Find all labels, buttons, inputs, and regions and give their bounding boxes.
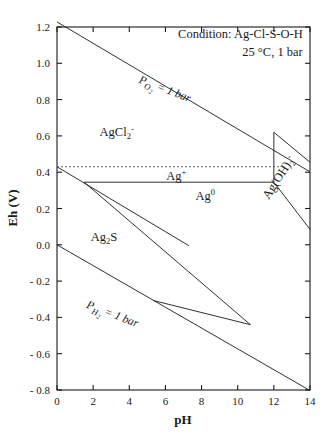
y-axis-ticks bbox=[57, 27, 310, 390]
x-tick-label-6: 6 bbox=[163, 395, 169, 407]
phase-label-agcl2-minus: AgCl2- bbox=[100, 124, 134, 141]
phase-label-ag2s: Ag2S bbox=[91, 230, 118, 246]
x-tick-label-4: 4 bbox=[127, 395, 133, 407]
ph2-label: PH2 = 1 bar bbox=[82, 298, 140, 334]
phase-region-labels: AgCl2-Ag+Ag0Ag2SAg(OH)2- bbox=[91, 124, 300, 246]
pourbaix-diagram-svg: 02468101214 1.21.00.80.60.40.20.0- 0.2- … bbox=[0, 0, 327, 436]
po2-label: PO2 = 1 bar bbox=[135, 73, 193, 109]
y-axis-title: Eh (V) bbox=[5, 189, 20, 226]
y-axis-tick-labels: 1.21.00.80.60.40.20.0- 0.2- 0.4- 0.6- 0.… bbox=[30, 21, 51, 396]
x-tick-label-10: 10 bbox=[232, 395, 244, 407]
y-tick-label-5: 0.2 bbox=[36, 203, 50, 215]
phase-boundary-lines bbox=[57, 22, 310, 391]
y-tick-label-2: 0.8 bbox=[36, 94, 50, 106]
y-tick-label-4: 0.4 bbox=[36, 166, 50, 178]
ag2s-upper-boundary bbox=[84, 182, 250, 324]
x-tick-label-0: 0 bbox=[54, 395, 60, 407]
gas-pressure-labels: PO2 = 1 barPH2 = 1 bar bbox=[82, 73, 193, 334]
phase-label-ag-plus: Ag+ bbox=[166, 167, 186, 183]
phase-label-agoh2-minus: Ag(OH)2- bbox=[259, 152, 300, 202]
y-tick-label-6: 0.0 bbox=[36, 239, 50, 251]
x-tick-label-8: 8 bbox=[199, 395, 205, 407]
condition-line-2: 25 °C, 1 bar bbox=[242, 45, 303, 59]
agoh2-lower-boundary bbox=[274, 182, 310, 229]
x-axis-tick-labels: 02468101214 bbox=[54, 395, 316, 407]
y-tick-label-10: - 0.8 bbox=[30, 384, 51, 396]
x-tick-label-14: 14 bbox=[305, 395, 317, 407]
y-tick-label-1: 1.0 bbox=[36, 57, 50, 69]
pourbaix-diagram-figure: 02468101214 1.21.00.80.60.40.20.0- 0.2- … bbox=[0, 0, 327, 436]
plot-frame bbox=[57, 27, 310, 390]
y-tick-label-7: - 0.2 bbox=[30, 275, 50, 287]
phase-label-ag-zero: Ag0 bbox=[195, 187, 215, 203]
y-tick-label-3: 0.6 bbox=[36, 130, 50, 142]
condition-annotations: Condition: Ag-Cl-S-O-H25 °C, 1 bar bbox=[178, 27, 304, 59]
y-tick-label-8: - 0.4 bbox=[30, 311, 51, 323]
x-axis-ticks bbox=[57, 27, 310, 390]
x-axis-title: pH bbox=[174, 412, 191, 427]
condition-line-1: Condition: Ag-Cl-S-O-H bbox=[178, 27, 303, 41]
y-tick-label-0: 1.2 bbox=[36, 21, 50, 33]
x-tick-label-12: 12 bbox=[268, 395, 279, 407]
y-tick-label-9: - 0.6 bbox=[30, 348, 51, 360]
x-tick-label-2: 2 bbox=[90, 395, 96, 407]
